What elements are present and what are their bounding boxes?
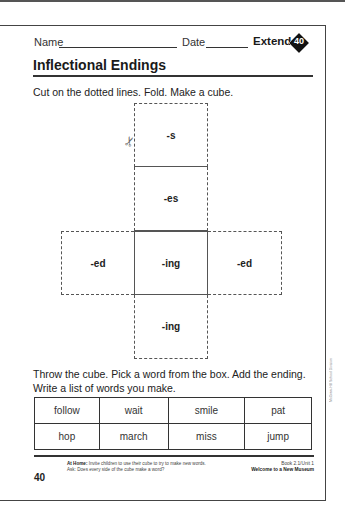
- face-label: -ed: [237, 258, 252, 269]
- word-box: follow wait smile pat hop march miss jum…: [34, 397, 312, 450]
- top-border-line: [0, 0, 345, 2]
- table-row: follow wait smile pat: [35, 398, 312, 424]
- at-home-text: Invite children to use their cube to try…: [67, 461, 206, 472]
- word-cell: march: [99, 424, 168, 450]
- copyright-text: McGraw-Hill School Division: [329, 345, 337, 415]
- cube-face-top: -s: [134, 103, 208, 167]
- word-cell: hop: [35, 424, 100, 450]
- date-label: Date: [182, 36, 205, 48]
- table-row: hop march miss jump: [35, 424, 312, 450]
- cube-face-bottom: -ing: [134, 295, 208, 359]
- book-title: Welcome to a New Museum: [222, 467, 314, 473]
- cube-face-left: -ed: [61, 231, 134, 295]
- page-title: Inflectional Endings: [33, 57, 166, 73]
- book-info: Book 2.1/Unit 1 Welcome to a New Museum: [222, 461, 314, 473]
- face-label: -ed: [91, 258, 106, 269]
- page-number: 40: [34, 472, 45, 483]
- word-cell: wait: [99, 398, 168, 424]
- cube-face-upper-middle: -es: [134, 167, 208, 231]
- instruction-cut: Cut on the dotted lines. Fold. Make a cu…: [33, 86, 233, 98]
- word-cell: smile: [168, 398, 245, 424]
- face-label: -es: [164, 193, 178, 204]
- face-label: -s: [167, 130, 176, 141]
- face-label: -ing: [162, 258, 180, 269]
- extend-label: Extend: [253, 35, 291, 47]
- face-label: -ing: [162, 321, 180, 332]
- at-home-label: At Home:: [67, 461, 87, 466]
- word-cell: jump: [245, 424, 312, 450]
- at-home-note: At Home: Invite children to use their cu…: [67, 461, 207, 473]
- instruction-throw: Throw the cube. Pick a word from the box…: [33, 367, 318, 395]
- word-cell: follow: [35, 398, 100, 424]
- word-cell: pat: [245, 398, 312, 424]
- name-field-line: [59, 47, 177, 48]
- word-cell: miss: [168, 424, 245, 450]
- date-field-line: [206, 47, 248, 48]
- footer-divider: [34, 455, 314, 457]
- cube-face-center: -ing: [134, 231, 208, 295]
- cube-face-right: -ed: [208, 231, 282, 295]
- lesson-number: 40: [289, 36, 309, 46]
- title-divider: [33, 75, 313, 77]
